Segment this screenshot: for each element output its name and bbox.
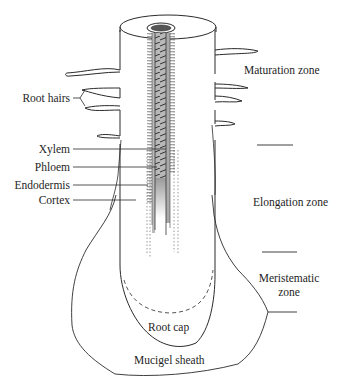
label-meristematic-zone-line2: zone <box>256 286 322 299</box>
cortex-line <box>110 140 121 210</box>
label-meristematic-zone-line1: Meristematic <box>256 272 322 285</box>
label-phloem: Phloem <box>8 161 70 174</box>
label-root-cap: Root cap <box>148 321 189 334</box>
root-hairs-right <box>215 49 258 126</box>
label-endodermis: Endodermis <box>0 179 70 192</box>
label-maturation-zone: Maturation zone <box>244 64 320 77</box>
label-xylem: Xylem <box>8 143 70 156</box>
meristem-boundary <box>124 270 213 313</box>
label-cortex: Cortex <box>8 194 70 207</box>
vascular-stele <box>147 33 178 258</box>
root-hairs-left <box>66 69 120 138</box>
label-root-hairs: Root hairs <box>8 92 70 105</box>
label-mucigel-sheath: Mucigel sheath <box>134 354 205 367</box>
label-elongation-zone: Elongation zone <box>253 196 328 209</box>
